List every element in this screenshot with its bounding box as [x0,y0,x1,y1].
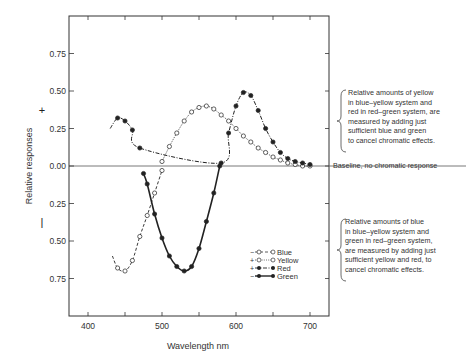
data-point-marker [160,236,164,240]
x-axis-label: Wavelength nm [167,341,229,351]
data-point-marker [264,126,268,130]
data-point-marker [234,104,238,108]
legend-label-green: Green [277,272,298,281]
data-point-marker [249,93,253,97]
legend-sign-yellow: + [250,257,254,264]
baseline-label: Baseline, no chromatic response [333,161,437,170]
data-point-marker [278,158,282,162]
data-point-marker [167,144,171,148]
data-point-marker [197,246,201,250]
data-point-marker [271,140,275,144]
positive-sign: + [39,104,45,116]
data-point-marker [153,191,157,195]
y-tick-label: 0.50 [49,236,66,246]
data-point-marker [301,161,305,165]
x-axis-ticks: 400500600700 [81,16,317,331]
data-point-marker [145,182,149,186]
data-point-marker [293,159,297,163]
data-point-marker [241,90,245,94]
data-point-marker [116,116,120,120]
y-tick-label: 0.75 [49,49,66,59]
legend-item-green: − Green [250,272,298,281]
negative-sign: | [41,216,44,228]
data-point-marker [138,234,142,238]
data-point-marker [218,164,222,168]
data-point-marker [182,269,186,273]
data-point-marker [204,104,208,108]
data-point-marker [286,156,290,160]
data-point-marker [278,150,282,154]
data-point-marker [123,119,127,123]
data-point-marker [241,134,245,138]
x-tick-label: 600 [229,321,243,331]
data-point-marker [308,162,312,166]
positive-note-brace [337,90,346,152]
y-tick-label: 0.75 [49,274,66,284]
data-point-marker [123,269,127,273]
data-point-marker [227,131,231,135]
data-point-marker [219,113,223,117]
data-point-marker [130,258,134,262]
legend-sign-red: + [250,265,254,272]
data-point-marker [271,155,275,159]
x-tick-label: 400 [81,321,95,331]
data-point-marker [190,264,194,268]
data-point-marker [234,126,238,130]
data-point-marker [264,150,268,154]
data-point-marker [197,105,201,109]
data-point-marker [212,107,216,111]
data-point-marker [212,191,216,195]
legend-item-yellow: + Yellow [250,256,299,265]
y-tick-label: 0.25 [49,199,66,209]
x-tick-label: 700 [303,321,317,331]
data-point-marker [153,212,157,216]
data-point-marker [227,119,231,123]
data-point-marker [160,168,164,172]
data-point-marker [116,266,120,270]
data-point-marker [182,119,186,123]
y-tick-label: 0.00 [49,161,66,171]
data-point-marker [256,108,260,112]
data-point-marker [190,110,194,114]
data-point-marker [130,128,134,132]
data-point-marker [204,219,208,223]
legend-sign-blue: − [250,249,254,256]
chart-canvas: 400500600700 0.000.250.500.750.250.500.7… [0,0,466,355]
legend-sign-green: − [250,273,254,280]
series-green [141,164,221,273]
y-axis-label: Relative responses [24,127,34,204]
legend: − Blue + Yellow + Red − Green [250,248,299,281]
positive-note: Relative amounts of yellow in blue–yello… [348,88,440,146]
negative-note: Relative amounts of blue in blue–yellow … [345,217,436,275]
y-tick-label: 0.25 [49,124,66,134]
series-group [110,90,312,273]
data-point-marker [249,140,253,144]
data-point-marker [160,159,164,163]
y-tick-label: 0.50 [49,86,66,96]
data-point-marker [256,146,260,150]
series-red [110,90,312,166]
data-point-marker [141,171,145,175]
data-point-marker [167,254,171,258]
x-tick-label: 500 [155,321,169,331]
data-point-marker [175,131,179,135]
data-point-marker [138,146,142,150]
data-point-marker [145,213,149,217]
data-point-marker [175,264,179,268]
data-point-marker [286,161,290,165]
